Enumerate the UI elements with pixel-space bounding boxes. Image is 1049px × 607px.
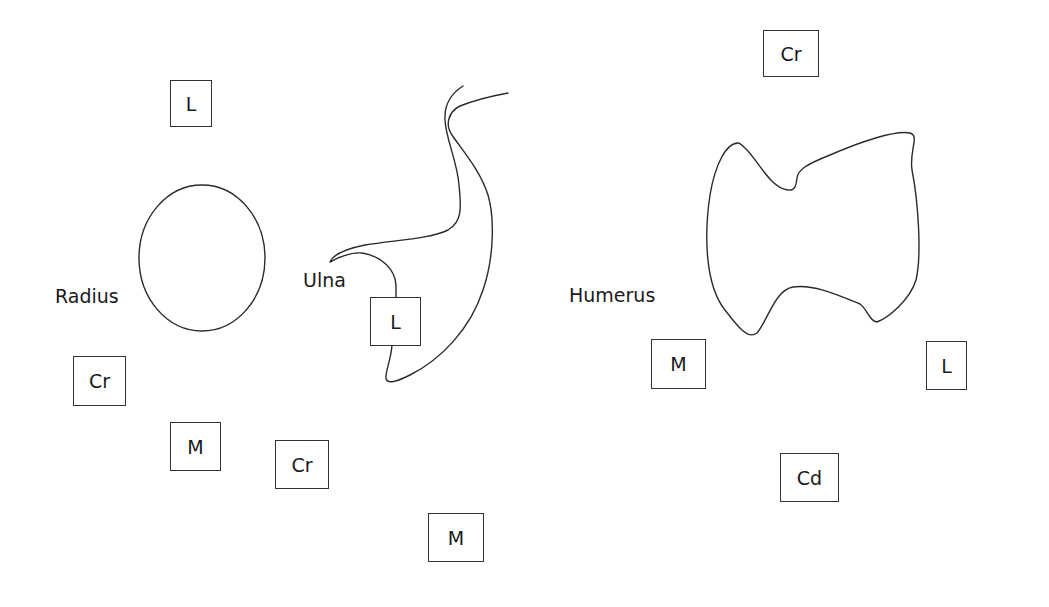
ulna-lateral-box: L xyxy=(370,297,421,346)
radius-label: Radius xyxy=(55,287,119,306)
humerus-label: Humerus xyxy=(569,286,655,305)
humerus-caudal-box: Cd xyxy=(780,453,839,502)
ulna-label: Ulna xyxy=(303,271,346,290)
ulna-medial-box: M xyxy=(428,513,484,562)
radius-lateral-box: L xyxy=(170,80,212,127)
ulna-cranial-box: Cr xyxy=(275,440,329,489)
humerus-medial-box: M xyxy=(651,339,706,389)
humerus-lateral-box: L xyxy=(926,341,967,390)
humerus-cranial-box: Cr xyxy=(763,30,819,77)
humerus-outline xyxy=(707,133,919,335)
radius-outline xyxy=(139,185,265,331)
radius-medial-box: M xyxy=(170,422,221,471)
radius-cranial-box: Cr xyxy=(73,356,126,406)
bone-outlines xyxy=(0,0,1049,607)
